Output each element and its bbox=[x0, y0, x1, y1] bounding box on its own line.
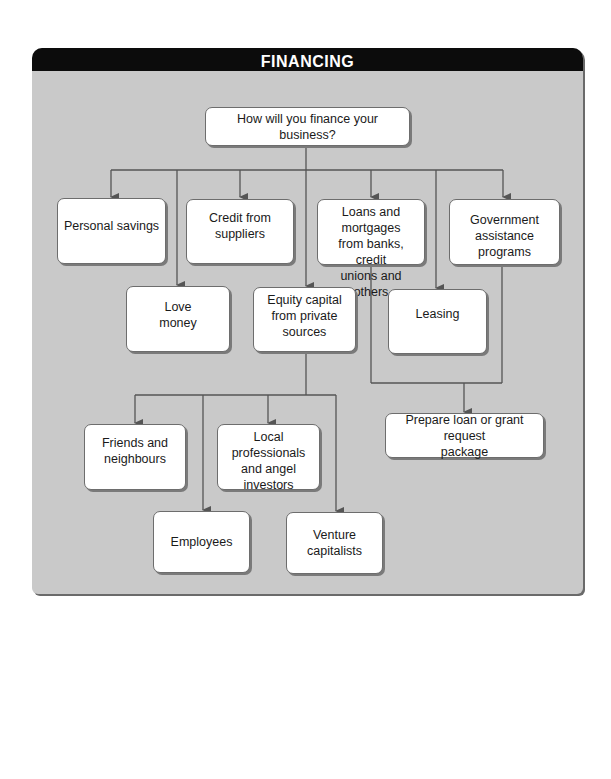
node-label: Equity capital from private sources bbox=[267, 292, 341, 340]
node-government-assistance: Government assistance programs bbox=[449, 199, 560, 265]
node-loans-and-mortgages: Loans and mortgages from banks, credit u… bbox=[317, 199, 425, 265]
node-label: How will you finance your business? bbox=[210, 111, 405, 143]
node-label: Friends and neighbours bbox=[102, 435, 168, 467]
node-label: Employees bbox=[171, 534, 233, 550]
node-label: Loans and mortgages from banks, credit u… bbox=[322, 204, 420, 300]
node-leasing: Leasing bbox=[388, 289, 487, 354]
node-label: Love money bbox=[159, 299, 197, 331]
node-venture-capitalists: Venture capitalists bbox=[286, 512, 383, 574]
node-local-professionals: Local professionals and angel investors bbox=[217, 424, 320, 490]
node-label: Venture capitalists bbox=[307, 527, 362, 559]
node-label: Credit from suppliers bbox=[209, 210, 271, 242]
node-label: Leasing bbox=[416, 306, 460, 322]
node-love-money: Love money bbox=[126, 286, 230, 352]
node-equity-capital: Equity capital from private sources bbox=[253, 287, 356, 352]
node-friends-and-neighbours: Friends and neighbours bbox=[84, 424, 186, 490]
panel-header: FINANCING bbox=[32, 48, 583, 71]
node-employees: Employees bbox=[153, 511, 250, 573]
node-personal-savings: Personal savings bbox=[57, 198, 166, 264]
node-label: Local professionals and angel investors bbox=[222, 429, 315, 493]
panel-title: FINANCING bbox=[32, 52, 583, 72]
node-credit-from-suppliers: Credit from suppliers bbox=[186, 199, 294, 264]
node-label: Prepare loan or grant request package bbox=[390, 412, 539, 460]
node-prepare-package: Prepare loan or grant request package bbox=[385, 413, 544, 458]
node-label: Personal savings bbox=[64, 218, 159, 234]
node-label: Government assistance programs bbox=[454, 212, 555, 260]
node-root-question: How will you finance your business? bbox=[205, 107, 410, 146]
